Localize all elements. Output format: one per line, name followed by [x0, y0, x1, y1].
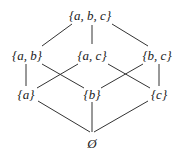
edge-abc-ab — [42, 24, 72, 46]
edge-ac-a — [37, 64, 78, 88]
edge-bc-b — [101, 64, 143, 88]
node-ab: {a, b} — [12, 49, 42, 62]
node-abc: {a, b, c} — [69, 9, 111, 22]
edge-a-empty — [38, 101, 90, 132]
node-empty: Ø — [87, 137, 96, 150]
edge-ac-c — [108, 64, 150, 88]
node-b: {b} — [84, 88, 101, 101]
edge-abc-bc — [112, 24, 148, 46]
edge-ab-b — [42, 64, 84, 88]
edge-layer — [0, 0, 181, 154]
hasse-diagram: {a, b, c}{a, b}{a, c}{b, c}{a}{b}{c}Ø — [0, 0, 181, 154]
node-ac: {a, c} — [77, 49, 106, 62]
node-a: {a} — [18, 88, 35, 101]
node-bc: {b, c} — [142, 49, 171, 62]
edge-c-empty — [94, 101, 148, 132]
node-c: {c} — [151, 88, 167, 101]
